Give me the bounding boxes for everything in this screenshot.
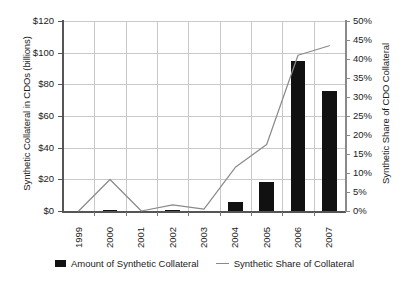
bar-swatch-icon <box>55 260 66 267</box>
tick-mark-right <box>345 40 350 41</box>
legend-item-line: Synthetic Share of Collateral <box>216 258 354 269</box>
y-axis-right-tick-label: 20% <box>353 130 387 140</box>
x-axis-tick-label-2000: 2000 <box>105 227 115 248</box>
y-axis-left-tick-label: $60 <box>20 111 54 121</box>
y-axis-left-tick-label: $80 <box>20 79 54 89</box>
y-axis-left-tick-label: $0 <box>20 206 54 216</box>
tick-mark-x <box>251 212 252 216</box>
synthetic-share-line <box>79 46 330 211</box>
tick-mark-right <box>345 135 350 136</box>
y-axis-right-tick-label: 15% <box>353 149 387 159</box>
y-axis-right-tick-label: 30% <box>353 92 387 102</box>
x-axis-tick-label-2001: 2001 <box>136 227 146 248</box>
x-axis-tick-label-2006: 2006 <box>293 227 303 248</box>
legend-label-bar: Amount of Synthetic Collateral <box>71 258 199 269</box>
tick-mark-right <box>345 211 350 212</box>
tick-mark-x <box>94 212 95 216</box>
line-swatch-icon <box>216 263 229 264</box>
tick-mark-right <box>345 192 350 193</box>
x-axis-tick-label-2002: 2002 <box>168 227 178 248</box>
y-axis-right-tick-label: 0% <box>353 206 387 216</box>
tick-mark-right <box>345 173 350 174</box>
y-axis-left-tick-label: $120 <box>20 16 54 26</box>
tick-mark-x <box>157 212 158 216</box>
x-axis-tick-label-2005: 2005 <box>262 227 272 248</box>
x-axis-tick-label-2003: 2003 <box>199 227 209 248</box>
tick-mark-right <box>345 21 350 22</box>
tick-mark-x <box>126 212 127 216</box>
y-axis-right-tick-label: 45% <box>353 35 387 45</box>
y-axis-right-tick-label: 10% <box>353 168 387 178</box>
x-axis-line <box>62 211 346 213</box>
x-axis-tick-label-2004: 2004 <box>230 227 240 248</box>
tick-mark-left <box>58 211 63 212</box>
y-axis-left-tick-label: $20 <box>20 174 54 184</box>
tick-mark-x <box>314 212 315 216</box>
tick-mark-right <box>345 97 350 98</box>
tick-mark-x <box>220 212 221 216</box>
y-axis-left-tick-label: $100 <box>20 48 54 58</box>
tick-mark-right <box>345 59 350 60</box>
tick-mark-x <box>188 212 189 216</box>
chart-container: Synthetic Collateral in CDOs (billions) … <box>0 0 409 285</box>
legend-item-bar: Amount of Synthetic Collateral <box>55 258 199 269</box>
y-axis-right-tick-label: 25% <box>353 111 387 121</box>
tick-mark-right <box>345 154 350 155</box>
tick-mark-x <box>282 212 283 216</box>
y-axis-left-tick-label: $40 <box>20 143 54 153</box>
y-axis-right-tick-label: 5% <box>353 187 387 197</box>
y-axis-right-tick-label: 40% <box>353 54 387 64</box>
chart-legend: Amount of Synthetic Collateral Synthetic… <box>0 258 409 269</box>
x-axis-tick-label-1999: 1999 <box>74 227 84 248</box>
line-series-layer <box>63 21 345 211</box>
tick-mark-right <box>345 116 350 117</box>
legend-label-line: Synthetic Share of Collateral <box>234 258 354 269</box>
tick-mark-right <box>345 78 350 79</box>
x-axis-tick-label-2007: 2007 <box>324 227 334 248</box>
y-axis-right-tick-label: 35% <box>353 73 387 83</box>
y-axis-right-tick-label: 50% <box>353 16 387 26</box>
